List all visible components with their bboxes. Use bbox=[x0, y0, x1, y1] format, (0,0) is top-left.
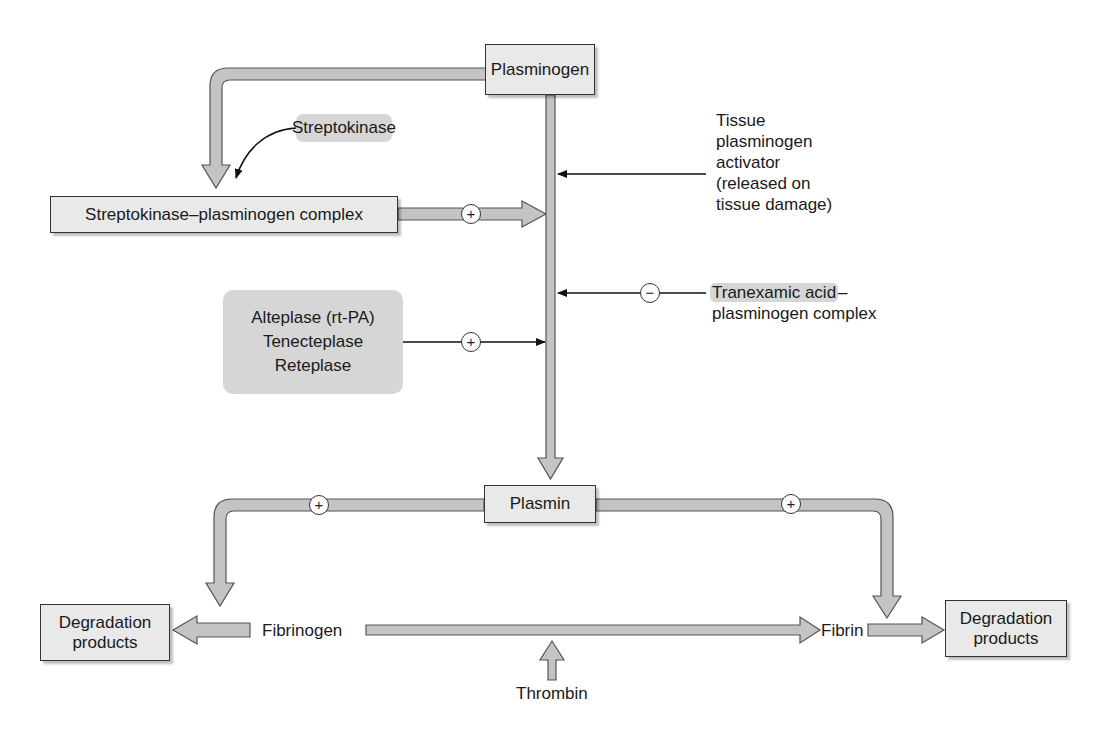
fibrin-label: Fibrin bbox=[821, 620, 864, 641]
pipe-fibrin-to-degradation bbox=[868, 617, 944, 643]
pipe-plasmin-to-fibrinogen-degradation bbox=[206, 499, 484, 606]
fibrinogen-label: Fibrinogen bbox=[262, 620, 342, 641]
pipe-thrombin-up bbox=[540, 641, 564, 680]
plasmin-label: Plasmin bbox=[510, 494, 570, 514]
plasmin-box: Plasmin bbox=[484, 485, 596, 523]
pipe-fibrinogen-to-degradation bbox=[173, 616, 250, 644]
degradation-products-left-box: Degradation products bbox=[40, 604, 170, 661]
degradation-products-right-box: Degradation products bbox=[945, 600, 1067, 657]
plus-sign-sk-complex: + bbox=[461, 204, 481, 224]
streptokinase-label: Streptokinase bbox=[292, 118, 396, 138]
plus-sign-plasmin-fibrinogen: + bbox=[309, 495, 329, 515]
pipe-plasmin-to-fibrin-degradation bbox=[596, 499, 901, 618]
tranexamic-label: Tranexamic acid– plasminogen complex bbox=[710, 282, 876, 324]
fibrinolytic-drugs-box: Alteplase (rt-PA) Tenecteplase Reteplase bbox=[223, 290, 403, 394]
plasminogen-box: Plasminogen bbox=[485, 44, 595, 95]
main-shaft-plasminogen-to-plasmin bbox=[538, 95, 563, 479]
plasminogen-label: Plasminogen bbox=[491, 60, 589, 80]
thrombin-label: Thrombin bbox=[516, 683, 588, 704]
streptokinase-curved-arrow bbox=[236, 128, 296, 178]
minus-sign-tranexamic: − bbox=[640, 283, 660, 303]
degradation-left-label: Degradation products bbox=[50, 613, 160, 653]
pipe-fibrinogen-to-fibrin bbox=[366, 617, 820, 643]
streptokinase-label-bg: Streptokinase bbox=[296, 114, 392, 142]
streptokinase-plasminogen-complex-box: Streptokinase–plasminogen complex bbox=[50, 196, 398, 233]
plus-sign-plasmin-fibrin: + bbox=[781, 494, 801, 514]
sk-complex-label: Streptokinase–plasminogen complex bbox=[85, 205, 363, 225]
tranexamic-highlight: Tranexamic acid bbox=[710, 283, 838, 302]
tpa-label: Tissue plasminogen activator (released o… bbox=[716, 110, 832, 215]
degradation-right-label: Degradation products bbox=[951, 609, 1061, 649]
plus-sign-drugs: + bbox=[461, 332, 481, 352]
